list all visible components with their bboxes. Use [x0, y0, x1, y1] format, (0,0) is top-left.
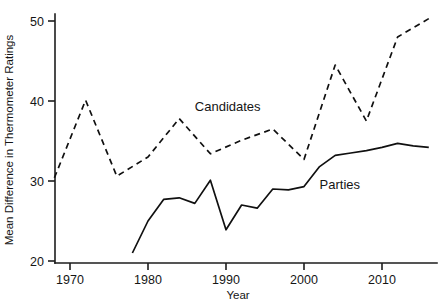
y-tick-label-50: 50	[30, 15, 44, 29]
series-annotation-candidates: Candidates	[195, 99, 261, 114]
x-tick-label-1970: 1970	[56, 273, 84, 287]
chart-plot-area: 50 40 30 20 1970 1980 1990 2000 2010 Yea…	[0, 0, 440, 307]
thermometer-ratings-line-chart: 50 40 30 20 1970 1980 1990 2000 2010 Yea…	[0, 0, 440, 307]
x-tick-label-2000: 2000	[290, 273, 318, 287]
y-axis-title: Mean Difference in Thermometer Ratings	[3, 35, 15, 246]
y-tick-label-40: 40	[30, 95, 44, 109]
series-line-parties	[132, 143, 428, 253]
y-tick-label-30: 30	[30, 175, 44, 189]
y-tick-label-20: 20	[30, 255, 44, 269]
x-tick-label-1990: 1990	[212, 273, 240, 287]
series-annotation-parties: Parties	[320, 177, 361, 192]
x-tick-label-1980: 1980	[134, 273, 162, 287]
x-tick-label-2010: 2010	[368, 273, 396, 287]
x-axis-title: Year	[226, 289, 249, 301]
